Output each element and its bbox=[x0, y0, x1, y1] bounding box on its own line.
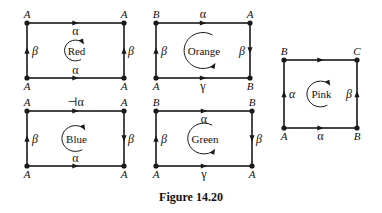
arrow-right-icon bbox=[200, 20, 206, 25]
vertex-label: A bbox=[23, 96, 31, 108]
edge-label-right: β bbox=[127, 132, 134, 146]
edge-label-top: ⊣α bbox=[67, 95, 84, 109]
edge-label-top: α bbox=[72, 24, 79, 38]
vertex-label: C bbox=[353, 45, 361, 57]
vertex-label: A bbox=[120, 96, 128, 108]
rotation-arrowhead-icon bbox=[210, 63, 216, 69]
polygon-green: BBAAαγββGreen bbox=[152, 96, 262, 181]
polygon-red: AAAAααββRed bbox=[23, 8, 134, 92]
arrow-right-icon bbox=[317, 57, 323, 62]
edge-label-bottom: γ bbox=[200, 167, 207, 181]
arrow-down-icon bbox=[247, 47, 252, 53]
vertex-dot bbox=[354, 57, 359, 62]
edge-label-right: β bbox=[255, 132, 262, 146]
edge-label-left: β bbox=[31, 44, 38, 58]
edge-label-right: β bbox=[127, 44, 134, 58]
arrow-up-icon bbox=[153, 47, 158, 53]
polygon-orange: BAABαγββOrange bbox=[152, 7, 254, 93]
vertex-label: A bbox=[246, 8, 254, 20]
polygon-pink: BCABααβPink bbox=[280, 45, 362, 143]
vertex-label: A bbox=[120, 8, 128, 20]
region-name-label: Green bbox=[192, 133, 219, 145]
edge-label-bottom: α bbox=[72, 63, 79, 77]
region-name-label: Orange bbox=[188, 45, 220, 57]
vertex-label: B bbox=[354, 130, 361, 142]
edge-label-right: β bbox=[238, 44, 245, 58]
edge-label-bottom: α bbox=[317, 129, 324, 143]
vertex-label: A bbox=[152, 80, 160, 92]
vertex-dot bbox=[121, 108, 126, 113]
vertex-label: A bbox=[23, 80, 31, 92]
arrow-up-icon bbox=[153, 135, 158, 141]
edge-label-right: β bbox=[345, 87, 352, 101]
vertex-label: A bbox=[280, 130, 288, 142]
arrow-up-icon bbox=[24, 47, 29, 53]
edge-label-left: β bbox=[31, 132, 38, 146]
rotation-arrowhead-icon bbox=[80, 124, 86, 130]
polygon-blue: AAAA⊣ααββBlue bbox=[23, 95, 134, 180]
edge-label-bottom: γ bbox=[199, 79, 206, 93]
rotation-arrowhead-icon bbox=[210, 149, 216, 155]
edge-label-left: β bbox=[160, 44, 167, 58]
vertex-dot bbox=[281, 57, 286, 62]
edge-label-bottom: α bbox=[72, 151, 79, 165]
vertex-label: B bbox=[281, 45, 288, 57]
vertex-label: A bbox=[248, 168, 256, 180]
vertex-dot bbox=[153, 108, 158, 113]
vertex-label: A bbox=[120, 80, 128, 92]
region-name-label: Blue bbox=[66, 133, 87, 145]
region-name-label: Red bbox=[68, 45, 86, 57]
vertex-label: B bbox=[153, 8, 160, 20]
arrow-down-icon bbox=[249, 135, 254, 141]
vertex-label: B bbox=[153, 96, 160, 108]
vertex-dot bbox=[153, 20, 158, 25]
arrow-down-icon bbox=[121, 135, 126, 141]
figure-14-20-diagram: AAAAααββRedBAABαγββOrangeAAAA⊣ααββBlueBB… bbox=[0, 0, 382, 213]
edge-label-left: β bbox=[160, 132, 167, 146]
edge-label-top: α bbox=[201, 112, 208, 126]
vertex-dot bbox=[24, 20, 29, 25]
arrow-up-icon bbox=[24, 135, 29, 141]
rotation-arrowhead-icon bbox=[325, 80, 331, 86]
arrow-up-icon bbox=[281, 91, 286, 97]
vertex-label: A bbox=[23, 8, 31, 20]
vertex-label: B bbox=[247, 80, 254, 92]
vertex-label: A bbox=[120, 168, 128, 180]
figure-caption: Figure 14.20 bbox=[0, 190, 382, 205]
vertex-dot bbox=[24, 108, 29, 113]
edge-label-top: α bbox=[200, 7, 207, 21]
vertex-dot bbox=[249, 108, 254, 113]
region-name-label: Pink bbox=[311, 88, 332, 100]
arrow-up-icon bbox=[121, 47, 126, 53]
edge-label-left: α bbox=[289, 87, 296, 101]
vertex-dot bbox=[247, 20, 252, 25]
vertex-label: B bbox=[249, 96, 256, 108]
vertex-label: A bbox=[152, 168, 160, 180]
arrow-right-icon bbox=[72, 108, 78, 113]
vertex-label: A bbox=[23, 168, 31, 180]
arrow-up-icon bbox=[354, 91, 359, 97]
vertex-dot bbox=[121, 20, 126, 25]
